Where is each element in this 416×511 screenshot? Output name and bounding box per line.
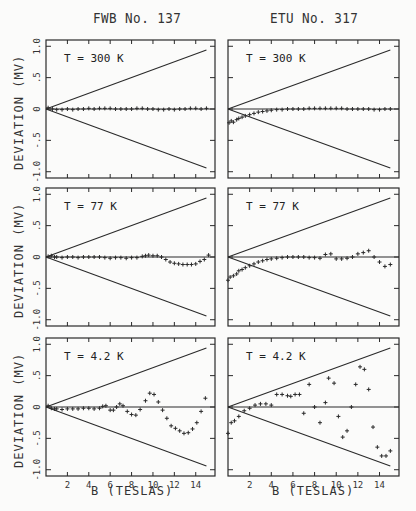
data-point-plus xyxy=(178,107,182,111)
data-point-plus xyxy=(280,256,284,260)
data-point-plus xyxy=(336,414,340,418)
x-tick-label: 10 xyxy=(148,480,159,490)
chart-panel-5: 24681012141.0.50-.5-1.0T = 4.2 K xyxy=(32,336,215,490)
data-point-plus xyxy=(188,106,192,110)
data-point-plus xyxy=(130,256,134,260)
data-point-plus xyxy=(313,106,317,110)
data-point-plus xyxy=(92,107,96,111)
data-point-plus xyxy=(388,449,392,453)
data-point-plus xyxy=(60,256,64,260)
data-point-plus xyxy=(372,255,376,259)
data-point-plus xyxy=(323,252,327,256)
data-point-plus xyxy=(307,382,311,386)
data-point-plus xyxy=(198,259,202,263)
data-point-plus xyxy=(383,264,387,268)
data-point-plus xyxy=(140,254,144,258)
y-tick-label: -1.0 xyxy=(32,161,42,183)
data-point-plus xyxy=(361,107,365,111)
data-point-plus xyxy=(97,106,101,110)
data-point-plus xyxy=(362,367,366,371)
data-point-plus xyxy=(345,429,349,433)
y-tick-label: 1.0 xyxy=(32,336,42,352)
data-point-plus xyxy=(296,107,300,111)
data-point-plus xyxy=(124,107,128,111)
data-point-plus xyxy=(275,108,279,112)
data-point-plus xyxy=(191,427,195,431)
data-point-plus xyxy=(168,260,172,264)
data-point-plus xyxy=(138,408,142,412)
data-point-plus xyxy=(169,424,173,428)
data-point-plus xyxy=(182,431,186,435)
chart-panel-3: 1.0.50-.5-1.0T = 77 K xyxy=(32,186,215,330)
data-point-plus xyxy=(380,454,384,458)
data-point-plus xyxy=(135,256,139,260)
data-point-plus xyxy=(111,408,115,412)
temperature-label: T = 77 K xyxy=(246,200,299,213)
data-point-plus xyxy=(203,396,207,400)
data-point-plus xyxy=(280,392,284,396)
chart-panel-6: 2468101214T = 4.2 K xyxy=(226,338,399,490)
data-point-plus xyxy=(275,392,279,396)
data-point-plus xyxy=(204,106,208,110)
x-tick-label: 14 xyxy=(374,480,385,490)
data-point-plus xyxy=(151,107,155,111)
data-point-plus xyxy=(152,392,156,396)
data-point-plus xyxy=(340,106,344,110)
data-point-plus xyxy=(134,413,138,417)
data-point-plus xyxy=(156,108,160,112)
y-tick-label: 0 xyxy=(32,404,42,409)
data-point-plus xyxy=(302,411,306,415)
data-point-plus xyxy=(280,108,284,112)
data-point-plus xyxy=(345,107,349,111)
data-point-plus xyxy=(65,107,69,111)
data-point-plus xyxy=(356,252,360,256)
data-point-plus xyxy=(313,405,317,409)
data-point-plus xyxy=(350,107,354,111)
data-point-plus xyxy=(103,256,107,260)
data-point-plus xyxy=(226,431,230,435)
data-point-plus xyxy=(183,107,187,111)
y-tick-label: 1.0 xyxy=(32,186,42,202)
data-point-plus xyxy=(181,263,185,267)
data-point-plus xyxy=(76,256,80,260)
data-point-plus xyxy=(76,107,80,111)
data-point-plus xyxy=(143,399,147,403)
data-point-plus xyxy=(388,263,392,267)
data-point-plus xyxy=(358,365,362,369)
data-point-plus xyxy=(237,414,241,418)
y-tick-label: -.5 xyxy=(32,430,42,446)
lower-envelope-line xyxy=(228,407,390,466)
data-point-plus xyxy=(60,108,64,112)
data-point-plus xyxy=(332,381,336,385)
temperature-label: T = 4.2 K xyxy=(246,350,306,363)
data-point-plus xyxy=(164,258,168,262)
data-point-plus xyxy=(388,107,392,111)
data-point-plus xyxy=(372,108,376,112)
data-point-plus xyxy=(329,252,333,256)
data-point-plus xyxy=(125,409,129,413)
data-point-plus xyxy=(156,400,160,404)
lower-envelope-line xyxy=(46,109,206,168)
data-point-plus xyxy=(256,260,260,264)
data-point-plus xyxy=(371,425,375,429)
data-point-plus xyxy=(194,106,198,110)
chart-grid: 1.0.50-.5-1.0T = 300 KT = 300 K1.0.50-.5… xyxy=(0,0,416,511)
lower-envelope-line xyxy=(228,109,390,168)
data-point-plus xyxy=(202,258,206,262)
data-point-plus xyxy=(307,256,311,260)
data-point-plus xyxy=(146,107,150,111)
data-point-plus xyxy=(55,108,59,112)
data-point-plus xyxy=(286,394,290,398)
x-tick-label: 4 xyxy=(269,480,274,490)
data-point-plus xyxy=(297,392,301,396)
data-point-plus xyxy=(140,106,144,110)
chart-panel-1: 1.0.50-.5-1.0T = 300 K xyxy=(32,38,215,182)
x-tick-label: 2 xyxy=(65,480,70,490)
y-tick-label: -.5 xyxy=(32,132,42,148)
data-point-plus xyxy=(323,106,327,110)
data-point-plus xyxy=(256,110,260,114)
data-point-plus xyxy=(103,106,107,110)
y-tick-label: 0 xyxy=(32,254,42,259)
data-point-plus xyxy=(194,262,198,266)
chart-panel-4: T = 77 K xyxy=(226,188,399,326)
